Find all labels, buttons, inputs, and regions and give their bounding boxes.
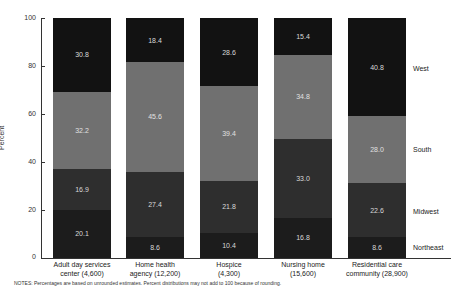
category-label-residential-care: Residential care community (28,900) <box>337 260 417 278</box>
category-line1: Nursing home <box>263 260 343 269</box>
segment-south: 28.0 <box>348 116 406 183</box>
category-line1: Hospice <box>189 260 269 269</box>
segment-west: 30.8 <box>53 18 111 92</box>
segment-northeast: 20.1 <box>53 210 111 258</box>
y-tick-label-60: 60 <box>14 110 36 117</box>
category-line1: Adult day services <box>42 260 122 269</box>
segment-midwest: 22.6 <box>348 183 406 237</box>
y-axis-title: Percent <box>0 126 5 150</box>
category-label-nursing-home: Nursing home (15,600) <box>263 260 343 278</box>
y-tick-label-0: 0 <box>14 253 36 260</box>
segment-west: 18.4 <box>126 18 184 62</box>
bar-hospice: 10.4 21.8 39.4 28.6 <box>200 18 258 258</box>
segment-south: 39.4 <box>200 86 258 181</box>
category-line2: (4,300) <box>189 269 269 278</box>
segment-west: 28.6 <box>200 18 258 86</box>
segment-northeast: 10.4 <box>200 233 258 258</box>
segment-midwest: 33.0 <box>274 139 332 218</box>
legend-northeast: Northeast <box>413 244 443 251</box>
stacked-bar-chart: 100 80 60 40 20 0 Percent 20.1 16.9 32.2… <box>0 0 458 292</box>
category-label-home-health-agency: Home health agency (12,200) <box>115 260 195 278</box>
segment-midwest: 27.4 <box>126 172 184 238</box>
category-label-adult-day-services: Adult day services center (4,600) <box>42 260 122 278</box>
category-line1: Home health <box>115 260 195 269</box>
legend-midwest: Midwest <box>413 208 439 215</box>
y-tick-label-100: 100 <box>14 14 36 21</box>
bar-residential-care-community: 8.6 22.6 28.0 40.8 <box>348 18 406 258</box>
category-line2: (15,600) <box>263 269 343 278</box>
y-tick-20 <box>41 210 45 211</box>
segment-midwest: 21.8 <box>200 181 258 233</box>
segment-south: 45.6 <box>126 62 184 171</box>
y-tick-40 <box>41 162 45 163</box>
y-tick-label-40: 40 <box>14 158 36 165</box>
segment-south: 34.8 <box>274 55 332 139</box>
legend-south: South <box>413 146 431 153</box>
x-axis <box>41 258 451 259</box>
segment-south: 32.2 <box>53 92 111 169</box>
category-line1: Residential care <box>337 260 417 269</box>
y-tick-80 <box>41 66 45 67</box>
bar-home-health-agency: 8.6 27.4 45.6 18.4 <box>126 18 184 258</box>
segment-midwest: 16.9 <box>53 169 111 210</box>
category-line2: community (28,900) <box>337 269 417 278</box>
y-tick-60 <box>41 114 45 115</box>
bar-adult-day-services: 20.1 16.9 32.2 30.8 <box>53 18 111 258</box>
segment-west: 40.8 <box>348 18 406 116</box>
category-label-hospice: Hospice (4,300) <box>189 260 269 278</box>
y-axis <box>41 18 42 258</box>
category-line2: agency (12,200) <box>115 269 195 278</box>
segment-northeast: 8.6 <box>126 237 184 258</box>
y-tick-label-20: 20 <box>14 206 36 213</box>
segment-northeast: 8.6 <box>348 237 406 258</box>
y-tick-100 <box>41 18 45 19</box>
bar-nursing-home: 16.8 33.0 34.8 15.4 <box>274 18 332 258</box>
segment-west: 15.4 <box>274 18 332 55</box>
chart-notes: NOTES: Percentages are based on unrounde… <box>14 280 281 286</box>
y-tick-label-80: 80 <box>14 62 36 69</box>
legend-west: West <box>413 65 429 72</box>
segment-northeast: 16.8 <box>274 218 332 258</box>
category-line2: center (4,600) <box>42 269 122 278</box>
